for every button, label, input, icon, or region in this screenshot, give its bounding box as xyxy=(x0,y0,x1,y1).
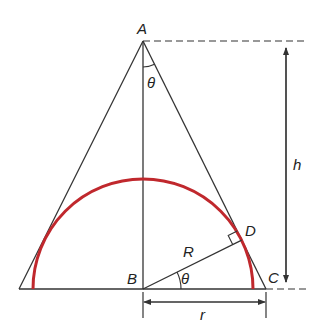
label-B: B xyxy=(127,270,137,287)
label-h: h xyxy=(293,156,301,173)
label-R: R xyxy=(183,243,194,260)
label-D: D xyxy=(245,222,256,239)
label-r: r xyxy=(200,306,206,323)
label-theta-apex: θ xyxy=(147,74,155,91)
label-theta-base: θ xyxy=(181,270,189,287)
left-slant-side xyxy=(19,41,143,289)
label-C: C xyxy=(268,269,279,286)
apex-angle-arc xyxy=(143,64,155,67)
label-A: A xyxy=(136,20,147,37)
cone-sphere-diagram: A θ h D R B θ C r xyxy=(0,0,326,328)
